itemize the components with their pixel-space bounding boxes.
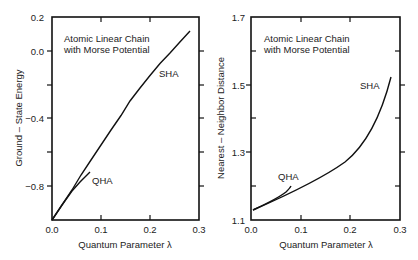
right-y-axis-label: Nearest – Neighbor Distance	[215, 57, 226, 179]
right-sha-curve	[253, 77, 391, 210]
left-xtick-label: 0.2	[143, 224, 156, 235]
left-ytick-label: 0.2	[31, 12, 44, 23]
left-ytick-label: −0.4	[25, 113, 44, 124]
figure: 0.2 0.0 −0.4 −0.8 0.0 0.1 0.2 0.3 Quantu…	[0, 0, 418, 260]
right-ytick-label: 1.1	[232, 215, 245, 226]
left-chart: 0.2 0.0 −0.4 −0.8 0.0 0.1 0.2 0.3 Quantu…	[13, 12, 206, 250]
left-xtick-label: 0.0	[45, 224, 58, 235]
left-annotation-line1: Atomic Linear Chain	[64, 33, 150, 44]
right-xtick-label: 0.0	[244, 224, 257, 235]
left-ytick-label: −0.8	[25, 181, 44, 192]
left-x-axis-label: Quantum Parameter λ	[78, 239, 172, 250]
left-qha-curve	[52, 172, 90, 220]
right-sha-label: SHA	[360, 80, 380, 91]
left-sha-curve	[52, 31, 190, 220]
right-xtick-label: 0.2	[343, 224, 356, 235]
right-ytick-label: 1.3	[232, 147, 245, 158]
right-xtick-label: 0.1	[294, 224, 307, 235]
left-qha-label: QHA	[92, 175, 113, 186]
right-x-axis-label: Quantum Parameter λ	[279, 239, 373, 250]
left-xtick-label: 0.3	[192, 224, 205, 235]
right-ytick-label: 1.5	[232, 80, 245, 91]
right-annotation-line2: with Morse Potential	[263, 44, 350, 55]
left-sha-label: SHA	[159, 68, 179, 79]
left-y-axis-label: Ground – State Energy	[13, 69, 24, 166]
right-qha-curve	[253, 186, 291, 210]
left-ytick-label: 0.0	[31, 46, 44, 57]
left-annotation-line2: with Morse Potential	[63, 44, 150, 55]
right-qha-label: QHA	[278, 171, 299, 182]
right-xtick-label: 0.3	[393, 224, 406, 235]
right-annotation-line1: Atomic Linear Chain	[264, 33, 350, 44]
right-chart: 1.7 1.5 1.3 1.1 0.0 0.1 0.2 0.3 Quantum …	[215, 12, 407, 250]
left-xtick-label: 0.1	[94, 224, 107, 235]
right-ytick-label: 1.7	[232, 12, 245, 23]
